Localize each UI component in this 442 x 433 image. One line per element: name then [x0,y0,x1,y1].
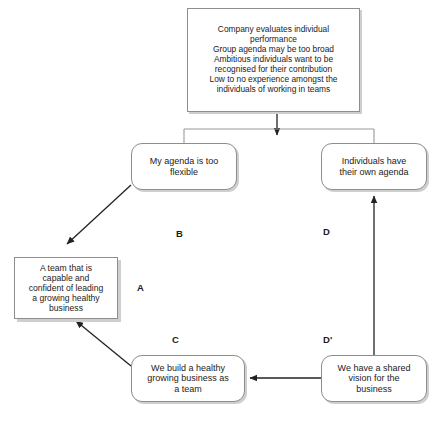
edge-label-d: D [323,226,330,237]
diagram-canvas: Company evaluates individual performance… [0,0,442,433]
node-dprime-shared-vision[interactable]: We have a shared vision for the business [321,355,427,402]
edge-label-d-prime: D' [323,334,333,345]
edge-label-c: C [172,334,179,345]
node-c-build-business[interactable]: We build a healthy growing business as a… [131,355,245,402]
edge-label-a: A [137,282,144,293]
edge-c-to-a [76,321,131,366]
node-d-individual-agenda[interactable]: Individuals have their own agenda [321,143,427,190]
node-b-my-agenda[interactable]: My agenda is too flexible [131,143,237,190]
node-a-capable-team[interactable]: A team that is capable and confident of … [14,257,118,319]
edge-b-to-a [67,185,131,244]
edge-label-b: B [176,228,183,239]
node-conflict-statement[interactable]: Company evaluates individual performance… [187,8,360,112]
